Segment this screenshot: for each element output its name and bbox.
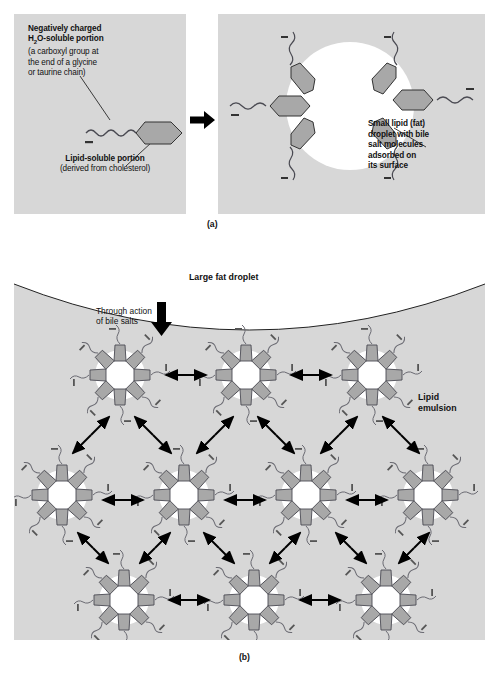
micelle — [134, 445, 234, 545]
micelle — [336, 550, 436, 640]
micelle-bile-salts-diagram — [218, 14, 485, 214]
repulsion-arrow-diagonal — [197, 417, 233, 453]
label-through-action-of-bile-salts: Through action of bile salts — [96, 306, 152, 327]
panel-a-caption: (a) — [207, 219, 218, 229]
micelle — [14, 445, 112, 545]
bile-salt-molecule — [372, 32, 398, 94]
repulsion-arrow-diagonal — [270, 533, 300, 563]
lipid-soluble-hexagon — [136, 122, 182, 144]
panel-a-left: Negatively charged H2O-soluble portion (… — [14, 14, 186, 214]
repulsion-arrow-diagonal — [78, 533, 108, 563]
repulsion-arrow-diagonal — [258, 417, 294, 453]
large-fat-droplet — [14, 250, 485, 330]
bile-salt-molecule — [393, 88, 474, 110]
label-large-fat-droplet: Large fat droplet — [189, 272, 258, 282]
micelle — [196, 325, 296, 425]
bile-salt-molecule-diagram — [14, 14, 186, 214]
caption-line: adsorbed on — [368, 151, 476, 162]
lipid-emulsion-diagram — [14, 250, 485, 640]
micelle — [70, 325, 170, 425]
panel-b: Large fat droplet Through action of bile… — [14, 250, 485, 640]
panel-b-caption: (b) — [239, 652, 250, 662]
caption-line: droplet with bile — [368, 130, 476, 141]
label-small-lipid-droplet: Small lipid (fat) droplet with bile salt… — [368, 119, 476, 172]
panel-a-right: Small lipid (fat) droplet with bile salt… — [218, 14, 485, 214]
leader-line-hydrophobic — [126, 142, 152, 166]
micelle — [378, 445, 478, 545]
repulsion-arrow-diagonal — [399, 533, 429, 563]
caption-line: Small lipid (fat) — [368, 119, 476, 130]
hydrophilic-chain — [86, 130, 136, 136]
micelle — [322, 325, 422, 425]
repulsion-arrow-diagonal — [140, 533, 170, 563]
repulsion-arrow-diagonal — [336, 533, 366, 563]
repulsion-arrow-diagonal — [321, 417, 357, 453]
bile-salt-molecule — [281, 118, 315, 180]
bile-salt-molecule — [281, 32, 315, 94]
figure-bile-salt-emulsification: Negatively charged H2O-soluble portion (… — [0, 0, 499, 676]
label-lipid-emulsion: Lipid emulsion — [418, 392, 457, 414]
micelle — [74, 550, 174, 640]
label-line: emulsion — [418, 403, 457, 414]
bile-salt-molecule — [230, 96, 310, 116]
repulsion-arrow-diagonal — [204, 533, 234, 563]
micelle — [204, 550, 304, 640]
micelle — [256, 445, 356, 545]
leader-line-hydrophilic — [80, 76, 110, 120]
repulsion-arrow-diagonal — [135, 417, 171, 453]
caption-line: its surface — [368, 161, 476, 172]
repulsion-arrow-diagonal — [73, 417, 109, 453]
label-line: Through action — [96, 306, 152, 316]
process-arrow-icon — [190, 110, 216, 130]
caption-line: salt molecules — [368, 140, 476, 151]
negative-charge-icon — [85, 141, 93, 143]
label-line: Lipid — [418, 392, 457, 403]
repulsion-arrow-diagonal — [383, 417, 419, 453]
label-line: of bile salts — [96, 316, 152, 326]
